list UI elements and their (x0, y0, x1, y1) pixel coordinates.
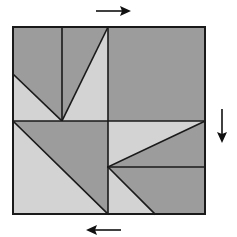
arrow-left-icon (86, 225, 121, 235)
quadrant-bottom-right (108, 121, 205, 214)
quadrant-top-left (13, 27, 108, 121)
puzzle-diagram (0, 0, 237, 237)
arrow-right-icon (96, 6, 131, 16)
quadrant-bottom-left (13, 121, 108, 214)
quadrant-top-right (108, 27, 205, 121)
arrow-down-icon (217, 109, 227, 143)
top-right-dark-square (108, 27, 205, 121)
